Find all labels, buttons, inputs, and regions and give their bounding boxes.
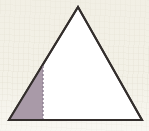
geometry-figure bbox=[0, 0, 149, 131]
triangle-diagram-svg bbox=[0, 0, 149, 131]
